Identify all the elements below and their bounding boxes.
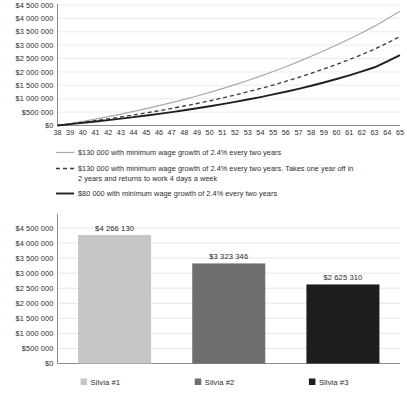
bar-legend-label-2: Silvia #2 bbox=[205, 378, 235, 387]
x-tick-label: 40 bbox=[79, 128, 87, 137]
line-series bbox=[58, 55, 401, 125]
line-chart: $4 500 000$4 000 000$3 500 000$3 000 000… bbox=[0, 0, 407, 212]
legend-label-3: $80 000 with minimum wage growth of 2.4%… bbox=[78, 189, 277, 198]
y-tick-label: $1 500 000 bbox=[16, 314, 54, 323]
y-tick-label: $2 000 000 bbox=[16, 68, 54, 77]
y-tick-label: $3 000 000 bbox=[16, 41, 54, 50]
x-tick-label: 62 bbox=[358, 128, 366, 137]
x-tick-label: 45 bbox=[142, 128, 150, 137]
bar-legend-swatch-2 bbox=[195, 379, 202, 386]
x-tick-label: 42 bbox=[104, 128, 112, 137]
x-tick-label: 47 bbox=[168, 128, 176, 137]
x-tick-label: 55 bbox=[269, 128, 277, 137]
x-tick-label: 50 bbox=[206, 128, 214, 137]
legend-label-1: $130 000 with minimum wage growth of 2.4… bbox=[78, 148, 282, 157]
bar-value-label-1: $4 266 130 bbox=[95, 224, 134, 233]
x-tick-label: 43 bbox=[117, 128, 125, 137]
y-tick-label: $4 500 000 bbox=[16, 1, 54, 10]
x-tick-label: 56 bbox=[282, 128, 290, 137]
x-tick-label: 44 bbox=[130, 128, 138, 137]
x-tick-label: 49 bbox=[193, 128, 201, 137]
bar-value-label-3: $2 625 310 bbox=[323, 273, 362, 282]
x-tick-label: 48 bbox=[180, 128, 188, 137]
x-tick-label: 41 bbox=[91, 128, 99, 137]
x-tick-label: 54 bbox=[256, 128, 264, 137]
bar-3[interactable] bbox=[306, 284, 379, 363]
x-tick-label: 51 bbox=[218, 128, 226, 137]
x-tick-label: 59 bbox=[320, 128, 328, 137]
y-tick-label: $4 000 000 bbox=[16, 14, 54, 23]
y-tick-label: $500 000 bbox=[22, 108, 54, 117]
x-tick-label: 52 bbox=[231, 128, 239, 137]
bar-legend-swatch-3 bbox=[309, 379, 316, 386]
y-tick-label: $2 500 000 bbox=[16, 284, 54, 293]
y-tick-label: $2 000 000 bbox=[16, 299, 54, 308]
bar-2[interactable] bbox=[192, 263, 265, 363]
bar-value-label-2: $3 323 346 bbox=[209, 252, 248, 261]
y-tick-label: $0 bbox=[45, 359, 53, 368]
bar-legend-label-1: Silvia #1 bbox=[91, 378, 121, 387]
y-tick-label: $3 500 000 bbox=[16, 254, 54, 263]
y-tick-label: $3 000 000 bbox=[16, 269, 54, 278]
x-tick-label: 39 bbox=[66, 128, 74, 137]
y-tick-label: $3 500 000 bbox=[16, 27, 54, 36]
x-tick-label: 64 bbox=[383, 128, 391, 137]
x-tick-label: 58 bbox=[307, 128, 315, 137]
x-tick-label: 38 bbox=[53, 128, 61, 137]
x-tick-label: 61 bbox=[345, 128, 353, 137]
x-tick-label: 60 bbox=[332, 128, 340, 137]
y-tick-label: $1 000 000 bbox=[16, 329, 54, 338]
y-tick-label: $500 000 bbox=[22, 344, 54, 353]
y-tick-label: $2 500 000 bbox=[16, 54, 54, 63]
y-tick-label: $1 500 000 bbox=[16, 81, 54, 90]
bar-legend-label-3: Silvia #3 bbox=[319, 378, 349, 387]
bar-1[interactable] bbox=[78, 235, 151, 363]
line-series bbox=[58, 11, 401, 125]
x-tick-label: 57 bbox=[294, 128, 302, 137]
y-tick-label: $0 bbox=[45, 121, 53, 130]
y-tick-label: $4 500 000 bbox=[16, 224, 54, 233]
x-tick-label: 53 bbox=[244, 128, 252, 137]
figure-container: $4 500 000$4 000 000$3 500 000$3 000 000… bbox=[0, 0, 407, 403]
bar-legend-swatch-1 bbox=[81, 379, 88, 386]
x-tick-label: 63 bbox=[371, 128, 379, 137]
x-tick-label: 46 bbox=[155, 128, 163, 137]
x-tick-label: 65 bbox=[396, 128, 404, 137]
y-tick-label: $1 000 000 bbox=[16, 94, 54, 103]
y-tick-label: $4 000 000 bbox=[16, 239, 54, 248]
bar-chart: $4 500 000$4 000 000$3 500 000$3 000 000… bbox=[0, 210, 407, 403]
legend-label-2: $130 000 with minimum wage growth of 2.4… bbox=[78, 164, 353, 173]
legend-label-2: 2 years and returns to work 4 days a wee… bbox=[78, 174, 217, 183]
